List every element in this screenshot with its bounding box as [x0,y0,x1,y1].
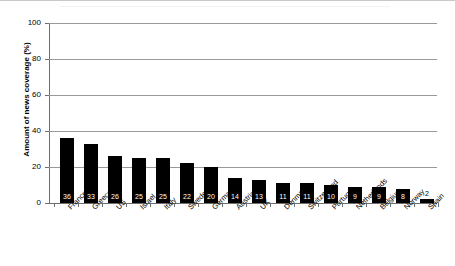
x-category-label: Denmark [282,205,288,211]
bar-slot: 22 [175,23,199,203]
bar-series: 3633262525222014131111109982 [49,23,437,203]
x-category-label: Portugal [330,205,336,211]
y-tick-label-40: 40 [19,126,41,135]
y-tick-label-100: 100 [19,18,41,27]
bar-chart: Amount of news coverage (%) 020406080100… [0,0,455,266]
bar-slot: 9 [343,23,367,203]
x-category-label: France [66,205,72,211]
bar-slot: 26 [103,23,127,203]
top-faint-rule [60,6,390,7]
x-category-label: Greece [90,205,96,211]
bar-slot: 10 [319,23,343,203]
bar-slot: 2 [415,23,439,203]
bar-slot: 20 [199,23,223,203]
bar-slot: 13 [247,23,271,203]
bar-slot: 25 [151,23,175,203]
x-category-label: Switzerland [306,205,312,211]
y-tick-label-60: 60 [19,90,41,99]
x-category-label: Spain [426,205,432,211]
x-category-label: Belgium [378,205,384,211]
x-category-label: Netherlands [354,205,360,211]
y-tick-label-20: 20 [19,162,41,171]
x-category-label: Norway [402,205,408,211]
bar-slot: 9 [367,23,391,203]
bar-slot: 11 [295,23,319,203]
x-category-label: Italy [162,205,168,211]
plot-area: 020406080100 363326252522201413111110998… [49,23,437,203]
x-category-label: Sweden [186,205,192,211]
bar-slot: 8 [391,23,415,203]
y-tick-label-80: 80 [19,54,41,63]
bar-slot: 11 [271,23,295,203]
y-tick-mark-0 [45,203,49,204]
bar-slot: 25 [127,23,151,203]
x-axis-category-labels: FranceGreeceUSIsraelItalySwedenGermanyAu… [49,205,449,265]
x-category-label: Germany [210,205,216,211]
bar-slot: 33 [79,23,103,203]
y-tick-label-0: 0 [19,198,41,207]
bar-slot: 36 [55,23,79,203]
x-category-label: Israel [138,205,144,211]
top-border-rule [0,0,455,1]
x-category-label: US [114,205,120,211]
bar-slot: 14 [223,23,247,203]
x-category-label: UK [258,205,264,211]
x-category-label: Austria [234,205,240,211]
